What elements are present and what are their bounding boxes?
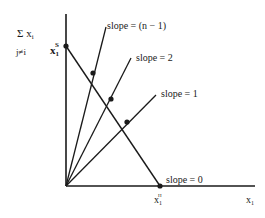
y-axis-index: j≠i	[15, 47, 26, 57]
diagram-canvas: Σ xi j≠i x1S x1H x1 slope = (n − 1) slop…	[0, 0, 265, 218]
y-axis-label: Σ xi	[17, 27, 34, 41]
point-xs-dot	[63, 43, 68, 48]
ray-slope-n-minus-1	[66, 27, 106, 186]
label-slope-n-minus-1: slope = (n − 1)	[107, 20, 166, 32]
x-axis-label: x1	[246, 194, 254, 206]
intersection-dot-n-minus-1	[90, 70, 95, 75]
ray-slope-1	[66, 95, 156, 186]
label-slope-0: slope = 0	[166, 174, 203, 185]
label-slope-1: slope = 1	[161, 88, 198, 99]
point-xs-label: x1S	[50, 41, 60, 58]
frontier-line	[66, 46, 160, 186]
intersection-dot-2	[108, 96, 113, 101]
point-xh-label: x1H	[154, 193, 162, 206]
point-xh-dot	[157, 183, 162, 188]
label-slope-2: slope = 2	[136, 52, 173, 63]
intersection-dot-1	[124, 119, 129, 124]
ray-slope-2	[66, 58, 131, 186]
